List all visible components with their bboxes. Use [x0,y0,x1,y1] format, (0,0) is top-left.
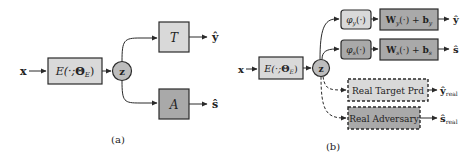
panel-b-output-y-hat: ŷ [452,14,460,25]
panel-b-output-s-real: ŝreal [440,113,458,125]
panel-b-linear-y-box: Wy(·) + by [380,9,438,30]
panel-a-latent-z: z [113,62,132,81]
panel-b-phi-s-box: φs(·) [341,40,371,59]
svg-text:Real Adversary: Real Adversary [349,114,419,124]
panel-a-target-head-box: T [159,22,189,52]
svg-text:Ws(·) + bs: Ws(·) + bs [385,45,432,56]
panel-b-latent-z: z [313,60,330,77]
panel-a-output-y-hat: ŷ [211,31,219,44]
panel-b-caption: (b) [326,141,340,152]
panel-b-linear-s-box: Ws(·) + bs [380,39,438,60]
panel-a-caption: (a) [111,134,125,145]
svg-text:z: z [318,64,323,74]
panel-b-input-x: x [238,64,245,75]
svg-text:φs(·): φs(·) [346,45,365,56]
panel-b-output-y-real: ŷreal [439,85,458,97]
svg-text:Real Target Prd: Real Target Prd [352,86,424,96]
svg-text:T: T [170,31,179,45]
panel-a-input-x: x [20,65,27,78]
svg-text:A: A [169,98,179,112]
panel-a-output-s-hat: ŝ [212,98,218,111]
panel-b: x E(·;ΘE) z φy(·) [238,9,460,152]
panel-b-phi-y-box: φy(·) [341,10,371,29]
panel-b-real-adversary-box: Real Adversary [348,107,420,129]
svg-text:z: z [119,66,125,77]
panel-b-output-s-hat: ŝ [453,44,459,55]
panel-a-encoder-box: E(·;ΘE) [48,58,102,84]
panel-a-adversary-head-box: A [159,89,189,119]
architecture-diagram: x E(·;ΘE) z T ŷ A ŝ [0,0,476,162]
panel-b-real-target-box: Real Target Prd [348,79,428,101]
panel-b-encoder-box: E(·;ΘE) [259,57,303,79]
panel-a: x E(·;ΘE) z T ŷ A ŝ [20,22,219,145]
